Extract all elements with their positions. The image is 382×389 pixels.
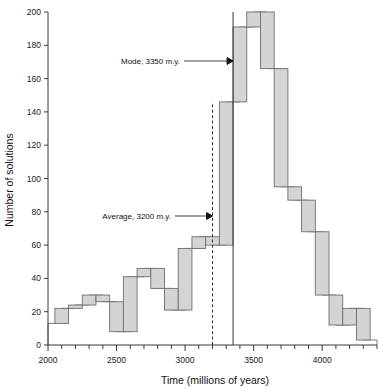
x-axis-tick-label: 4000 xyxy=(313,355,332,365)
histogram-riser xyxy=(123,277,137,332)
chart-figure: Mode, 3350 m.y.Average, 3200 m.y. 020406… xyxy=(0,0,382,389)
x-axis-tick-label: 2000 xyxy=(39,355,58,365)
mode-annotation-label: Mode, 3350 m.y. xyxy=(121,57,180,66)
histogram-riser xyxy=(274,69,288,187)
histogram-riser xyxy=(260,12,274,69)
average-annotation-label: Average, 3200 m.y. xyxy=(102,212,171,221)
x-axis-tick-label: 3000 xyxy=(176,355,195,365)
histogram-riser xyxy=(82,295,96,305)
histogram-riser xyxy=(302,200,316,232)
histogram-riser xyxy=(69,305,83,308)
histogram-riser xyxy=(110,302,124,332)
x-axis-tick-label: 3500 xyxy=(244,355,263,365)
x-axis-tick-label: 2500 xyxy=(107,355,126,365)
histogram-riser xyxy=(247,12,261,27)
histogram-riser xyxy=(165,288,179,310)
y-axis-tick-label: 40 xyxy=(32,273,42,283)
y-axis-tick-label: 200 xyxy=(27,7,41,17)
y-axis-tick-label: 180 xyxy=(27,40,41,50)
histogram-riser xyxy=(55,308,69,323)
histogram-riser xyxy=(219,102,233,245)
histogram-riser xyxy=(178,248,192,310)
histogram-riser xyxy=(192,237,206,249)
histogram-svg: Mode, 3350 m.y.Average, 3200 m.y. 020406… xyxy=(0,0,382,389)
y-axis-tick-label: 160 xyxy=(27,74,41,84)
y-axis-tick-label: 0 xyxy=(36,340,41,350)
y-axis-tick-label: 140 xyxy=(27,107,41,117)
y-axis-tick-label: 60 xyxy=(32,240,42,250)
histogram-riser xyxy=(137,268,151,276)
histogram-riser xyxy=(315,232,329,295)
y-axis-tick-label: 100 xyxy=(27,174,41,184)
y-axis-tick-label: 80 xyxy=(32,207,42,217)
mode-annotation: Mode, 3350 m.y. xyxy=(121,57,233,66)
histogram-riser xyxy=(329,295,343,325)
average-annotation-arrowhead xyxy=(207,213,213,220)
histogram-riser xyxy=(151,268,165,288)
histogram-riser xyxy=(343,308,357,325)
x-axis-title: Time (millions of years) xyxy=(161,374,269,386)
mode-annotation-arrowhead xyxy=(227,58,233,65)
y-axis-tick-label: 120 xyxy=(27,140,41,150)
histogram-riser xyxy=(356,308,370,340)
average-annotation: Average, 3200 m.y. xyxy=(102,212,212,221)
y-axis-tick-label: 20 xyxy=(32,307,42,317)
y-axis-title: Number of solutions xyxy=(3,133,15,226)
histogram-riser xyxy=(96,295,110,302)
histogram-riser xyxy=(233,27,247,102)
histogram-riser xyxy=(288,187,302,200)
